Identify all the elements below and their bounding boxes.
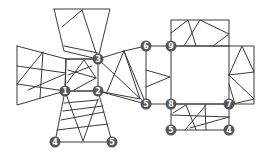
vertex-marker-8: 8 — [166, 99, 177, 110]
svg-text:5: 5 — [109, 138, 115, 147]
right-net — [146, 20, 254, 130]
vertex-marker-7: 7 — [224, 99, 235, 110]
vertex-marker-4-bottom: 4 — [224, 125, 235, 136]
vertex-marker-5-bottom: 5 — [166, 125, 177, 136]
svg-text:5: 5 — [143, 100, 149, 109]
vertex-marker-9: 9 — [166, 41, 177, 52]
vertex-marker-3: 3 — [93, 54, 104, 65]
svg-text:8: 8 — [168, 100, 174, 109]
svg-text:9: 9 — [168, 42, 174, 51]
svg-text:4: 4 — [226, 126, 232, 135]
svg-text:1: 1 — [62, 87, 68, 96]
svg-text:7: 7 — [226, 100, 232, 109]
diagram-canvas: 1 2 3 4 5 6 9 5 8 7 5 4 — [0, 0, 267, 155]
svg-text:5: 5 — [168, 126, 174, 135]
svg-text:4: 4 — [52, 138, 58, 147]
vertex-marker-2: 2 — [93, 86, 104, 97]
net-diagram: 1 2 3 4 5 6 9 5 8 7 5 4 — [0, 0, 267, 155]
svg-text:6: 6 — [143, 42, 149, 51]
vertex-marker-5-right: 5 — [141, 99, 152, 110]
vertex-marker-6: 6 — [141, 41, 152, 52]
vertex-marker-1: 1 — [60, 86, 71, 97]
vertex-marker-4: 4 — [50, 137, 61, 148]
vertex-marker-5: 5 — [107, 137, 118, 148]
svg-text:2: 2 — [95, 87, 101, 96]
svg-text:3: 3 — [95, 55, 101, 64]
left-net — [17, 9, 146, 142]
